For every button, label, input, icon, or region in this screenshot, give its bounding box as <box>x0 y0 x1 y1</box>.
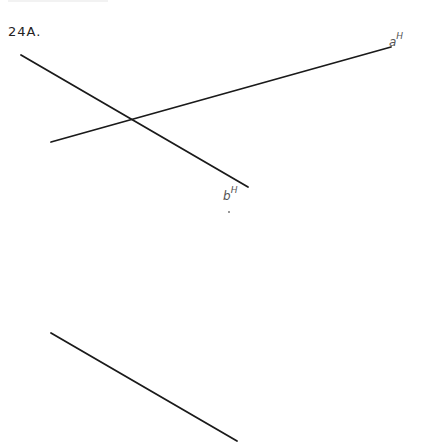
line-b <box>21 55 248 187</box>
label-b-sup: H <box>231 185 238 195</box>
line-a <box>51 47 391 142</box>
label-a-h: aH <box>389 33 403 49</box>
line-c <box>51 333 237 441</box>
label-b-h: bH <box>223 187 237 203</box>
point-mark <box>228 211 230 213</box>
label-a-sup: H <box>396 31 403 41</box>
label-b-base: b <box>223 189 231 203</box>
drawing-canvas <box>0 0 425 443</box>
